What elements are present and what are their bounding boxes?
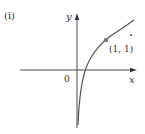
- x-axis-arrow-icon: [130, 68, 137, 72]
- y-axis-arrow-icon: [75, 13, 79, 20]
- log-curve: [78, 20, 134, 125]
- point-1-1: [104, 38, 109, 43]
- y-axis-label: y: [65, 11, 72, 22]
- point-label: (1, 1): [109, 44, 133, 54]
- origin-label: 0: [64, 74, 70, 84]
- x-axis-label: x: [129, 74, 135, 85]
- panel-label: (i): [4, 10, 15, 21]
- graph-figure: (i) x y 0 (1, 1): [0, 0, 145, 134]
- annotation-dot: [130, 34, 132, 36]
